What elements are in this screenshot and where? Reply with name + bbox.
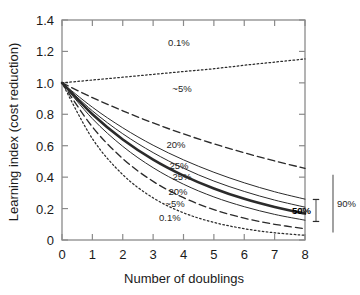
- y-tick-label: 1.0: [36, 76, 54, 91]
- annotation-label: ~5%: [165, 198, 185, 209]
- annotation-label: ~5%: [172, 83, 192, 94]
- x-axis-title: Number of doublings: [124, 271, 244, 286]
- annotation-label: 20%: [166, 139, 186, 150]
- annotation-label: 25%: [169, 160, 189, 171]
- y-tick-label: 1.2: [36, 44, 54, 59]
- y-tick-label: 0.4: [36, 170, 54, 185]
- x-tick-label: 7: [271, 247, 278, 262]
- learning-curve-figure: 00.20.40.60.81.01.21.4 012345678 0.1%~5%…: [0, 0, 360, 295]
- annotation-label: 0.1%: [168, 37, 190, 48]
- chart-canvas: 00.20.40.60.81.01.21.4 012345678 0.1%~5%…: [0, 0, 360, 295]
- y-tick-label: 0.6: [36, 139, 54, 154]
- y-tick-label: 0.8: [36, 107, 54, 122]
- x-tick-label: 4: [180, 247, 187, 262]
- x-tick-label: 8: [301, 247, 308, 262]
- inline-annotations: 0.1%~5%20%25%25%20%~5%0.1%: [159, 37, 192, 224]
- range-bars: 50%90%: [292, 175, 357, 233]
- annotation-label: 20%: [169, 186, 189, 197]
- annotation-label: 25%: [172, 171, 192, 182]
- x-tick-label: 0: [58, 247, 65, 262]
- y-tick-label: 0.2: [36, 202, 54, 217]
- y-tick-label: 1.4: [36, 13, 54, 28]
- y-axis-title: Learning index (cost reduction): [6, 43, 21, 222]
- curve-0-1-upper: [62, 59, 305, 83]
- y-tick-label: 0: [47, 233, 54, 248]
- curve--5-upper: [62, 83, 305, 168]
- x-tick-label: 3: [150, 247, 157, 262]
- x-tick-label: 1: [89, 247, 96, 262]
- range-bar-label: 90%: [337, 198, 357, 209]
- range-bar-label: 50%: [292, 205, 312, 216]
- x-tick-label: 6: [241, 247, 248, 262]
- x-tick-label: 5: [210, 247, 217, 262]
- annotation-label: 0.1%: [159, 212, 181, 223]
- x-tick-label: 2: [119, 247, 126, 262]
